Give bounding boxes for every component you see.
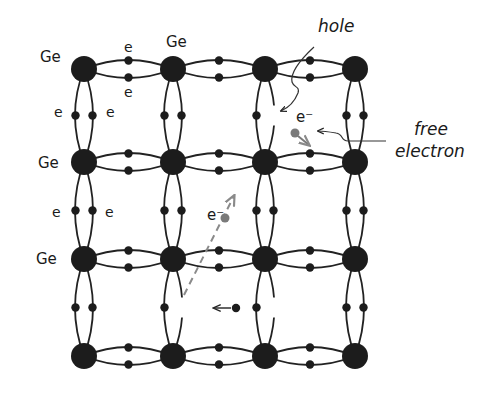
ge-atom: [71, 56, 97, 82]
ge-atom: [252, 149, 278, 175]
bond-electron: [71, 111, 79, 119]
bond-electron: [124, 149, 132, 157]
bond-electron: [252, 303, 260, 311]
free-electron-label-line2: electron: [395, 143, 465, 160]
e-minus-jumping-electron: e⁻: [207, 208, 224, 223]
ge-label-row3: Ge: [36, 252, 57, 267]
bond-electron: [177, 111, 185, 119]
moving-bond-electron: [232, 304, 240, 312]
bond-electron: [359, 206, 367, 214]
ge-atom: [160, 343, 186, 369]
bond-electron: [71, 206, 79, 214]
bond-electron: [71, 303, 79, 311]
bond-electron: [306, 360, 314, 368]
ge-atom: [342, 56, 368, 82]
bond-electron: [306, 73, 314, 81]
free-electron-motion-arrow: [298, 136, 309, 145]
ge-atom: [71, 343, 97, 369]
ge-atom: [160, 246, 186, 272]
bond-electron: [124, 263, 132, 271]
bond-electron: [88, 206, 96, 214]
bond-electron: [342, 206, 350, 214]
bond-electron: [252, 206, 260, 214]
lattice-svg: [0, 0, 485, 393]
bond-electron: [124, 166, 132, 174]
bond-electron: [124, 56, 132, 64]
e-label-left-row1: e: [54, 105, 63, 119]
e-label-right-row1: e: [106, 105, 115, 119]
e-minus-free-electron: e⁻: [296, 110, 313, 125]
bond-electron: [306, 263, 314, 271]
ge-atom: [71, 246, 97, 272]
ge-atom: [160, 149, 186, 175]
ge-atom: [252, 246, 278, 272]
bond-electron: [252, 111, 260, 119]
bond-electron: [342, 111, 350, 119]
ge-atom: [252, 343, 278, 369]
bond-electron: [306, 246, 314, 254]
hole-label: hole: [318, 18, 354, 35]
bond-electron: [160, 206, 168, 214]
free-electron-label-line1: free: [414, 121, 448, 138]
bond-electron: [306, 56, 314, 64]
bond-electron: [124, 246, 132, 254]
e-label-top-lower: e: [124, 85, 133, 99]
bond-electron: [359, 111, 367, 119]
ge-atom: [342, 343, 368, 369]
ge-atom: [342, 149, 368, 175]
ge-label-row2: Ge: [38, 156, 59, 171]
bond-electron: [177, 206, 185, 214]
ge-label-top-second: Ge: [166, 35, 187, 50]
bond-electron: [215, 56, 223, 64]
bond-electron: [306, 149, 314, 157]
bond-electron: [160, 111, 168, 119]
bond-electron: [306, 343, 314, 351]
ge-label-top-left: Ge: [40, 50, 61, 65]
bond-electron: [215, 149, 223, 157]
e-label-top-upper: e: [124, 40, 133, 54]
germanium-lattice-diagram: Ge Ge Ge Ge e e e e e e hole free electr…: [0, 0, 485, 393]
bond-electron: [215, 166, 223, 174]
bond-electron: [215, 263, 223, 271]
bond-electron: [306, 166, 314, 174]
ge-atom: [342, 246, 368, 272]
bond-electron: [342, 303, 350, 311]
bond-electron: [124, 343, 132, 351]
ge-atom: [71, 149, 97, 175]
bond-electron: [215, 360, 223, 368]
bond-electron: [160, 303, 168, 311]
free-electron-pointer-arrow: [318, 131, 386, 141]
bond-electron: [269, 206, 277, 214]
bond-electron: [215, 246, 223, 254]
bond-electron: [215, 343, 223, 351]
ge-atom: [252, 56, 278, 82]
bond-electron: [124, 360, 132, 368]
bond-electron: [88, 111, 96, 119]
bond-electron: [215, 73, 223, 81]
bond-electron: [88, 303, 96, 311]
e-label-right-row2: e: [105, 205, 114, 219]
ge-atom: [160, 56, 186, 82]
bond-electron: [359, 303, 367, 311]
bond-electron: [124, 73, 132, 81]
e-label-left-row2: e: [52, 205, 61, 219]
